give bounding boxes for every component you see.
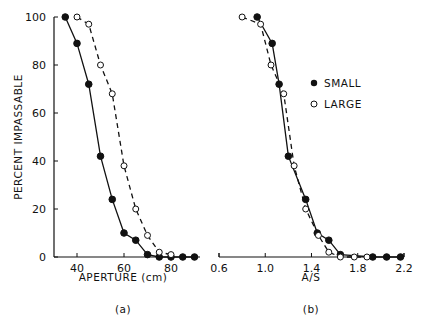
panel-label-a: (a) xyxy=(115,303,131,315)
data-point-small xyxy=(254,14,261,21)
data-point-large xyxy=(74,14,80,20)
x-tick-label: 1.8 xyxy=(349,262,367,275)
legend: SMALL LARGE xyxy=(311,77,362,110)
data-point-small xyxy=(97,153,104,160)
data-point-large xyxy=(133,206,139,212)
panel-a-aperture: 020406080100406080 xyxy=(25,11,200,275)
data-point-large xyxy=(303,206,309,212)
data-point-small xyxy=(179,254,186,261)
data-point-large xyxy=(258,21,264,27)
data-point-large xyxy=(168,252,174,258)
data-point-small xyxy=(62,14,69,21)
filled-circle-marker-icon xyxy=(311,80,317,86)
data-point-small xyxy=(191,254,198,261)
x-axis-label-b: A/S xyxy=(302,271,321,283)
data-point-large xyxy=(156,249,162,255)
data-point-large xyxy=(291,163,297,169)
data-point-large xyxy=(268,62,274,68)
series-line-small xyxy=(257,17,400,257)
data-point-large xyxy=(337,254,343,260)
legend-large: LARGE xyxy=(324,98,362,110)
data-point-large xyxy=(281,91,287,97)
data-point-small xyxy=(132,237,139,244)
y-tick-label: 0 xyxy=(39,251,46,264)
y-tick-label: 20 xyxy=(32,203,46,216)
legend-small: SMALL xyxy=(324,77,361,89)
x-axis-label-a: APERTURE (cm) xyxy=(79,271,168,283)
y-axis-label: PERCENT IMPASSABLE xyxy=(12,74,24,200)
x-tick-label: 0.6 xyxy=(210,262,228,275)
y-tick-label: 60 xyxy=(32,107,46,120)
open-circle-marker-icon xyxy=(311,101,317,107)
data-point-small xyxy=(326,237,333,244)
data-point-large xyxy=(315,232,321,238)
y-tick-label: 40 xyxy=(32,155,46,168)
data-point-large xyxy=(109,91,115,97)
series-line-large xyxy=(77,17,171,255)
data-point-large xyxy=(239,14,245,20)
figure: 020406080100406080 0.61.01.41.82.2 PERCE… xyxy=(0,0,427,329)
data-point-small xyxy=(109,196,116,203)
panel-label-b: (b) xyxy=(303,303,319,315)
x-tick-label: 2.2 xyxy=(395,262,413,275)
series-line-large xyxy=(242,17,367,257)
data-point-large xyxy=(121,163,127,169)
data-point-small xyxy=(121,230,128,237)
data-point-large xyxy=(351,254,357,260)
data-point-large xyxy=(326,249,332,255)
data-point-small xyxy=(74,40,81,47)
x-tick-label: 1.0 xyxy=(256,262,274,275)
panel-b-ratio: 0.61.01.41.82.2 xyxy=(210,14,412,275)
data-point-small xyxy=(85,81,92,88)
data-point-large xyxy=(364,254,370,260)
data-point-small xyxy=(269,40,276,47)
y-tick-label: 100 xyxy=(25,11,46,24)
data-point-small xyxy=(144,251,151,258)
data-point-large xyxy=(98,62,104,68)
data-point-small xyxy=(397,254,404,261)
data-point-small xyxy=(285,153,292,160)
y-tick-label: 80 xyxy=(32,59,46,72)
series-line-small xyxy=(65,17,194,257)
data-point-small xyxy=(383,254,390,261)
data-point-large xyxy=(86,21,92,27)
data-point-large xyxy=(145,232,151,238)
